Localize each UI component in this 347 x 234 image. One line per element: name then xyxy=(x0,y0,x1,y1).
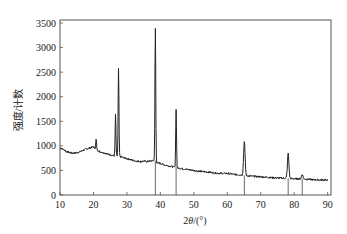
y-tick-label: 2000 xyxy=(36,91,56,102)
y-tick-label: 1000 xyxy=(36,140,56,151)
x-tick-label: 40 xyxy=(155,199,165,210)
x-axis-title: 2θ/(°) xyxy=(183,215,206,227)
xrd-chart: 102030405060708090 050010001500200025003… xyxy=(0,0,347,234)
x-tick-label: 10 xyxy=(55,199,65,210)
x-tick-label: 70 xyxy=(256,199,266,210)
xrd-series-line xyxy=(60,28,328,181)
plot-frame xyxy=(60,20,331,195)
x-tick-label: 20 xyxy=(88,199,98,210)
x-tick-label: 90 xyxy=(323,199,333,210)
x-tick-label: 80 xyxy=(289,199,299,210)
y-tick-label: 3000 xyxy=(36,42,56,53)
x-tick-label: 50 xyxy=(189,199,199,210)
y-tick-label: 2500 xyxy=(36,67,56,78)
y-tick-label: 500 xyxy=(41,165,56,176)
x-tick-label: 30 xyxy=(122,199,132,210)
plot-area xyxy=(60,20,331,195)
x-tick-label: 60 xyxy=(222,199,232,210)
y-tick-label: 3500 xyxy=(36,18,56,29)
y-tick-label: 0 xyxy=(51,190,56,201)
y-axis: 0500100015002000250030003500 xyxy=(36,18,63,201)
y-axis-title: 强度/计数 xyxy=(12,89,24,132)
y-tick-label: 1500 xyxy=(36,116,56,127)
